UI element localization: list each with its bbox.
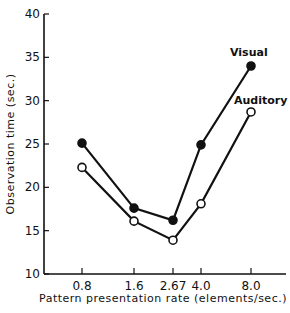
open-circle-marker bbox=[169, 236, 177, 244]
filled-circle-marker bbox=[197, 141, 205, 149]
open-circle-marker bbox=[247, 108, 255, 116]
filled-circle-marker bbox=[78, 139, 86, 147]
series-label-auditory: Auditory bbox=[234, 94, 287, 107]
series-lines bbox=[78, 62, 255, 244]
filled-circle-marker bbox=[169, 216, 177, 224]
y-tick-label: 10 bbox=[25, 267, 40, 281]
filled-circle-marker bbox=[130, 204, 138, 212]
x-axis-label: Pattern presentation rate (elements/sec.… bbox=[39, 292, 287, 305]
y-tick-label: 40 bbox=[25, 7, 40, 21]
x-tick-label: 2.67 bbox=[160, 279, 187, 293]
open-circle-marker bbox=[78, 163, 86, 171]
series-line-visual bbox=[82, 66, 251, 220]
x-tick-label: 8.0 bbox=[241, 279, 260, 293]
x-axis-ticks: 0.81.62.674.08.0 bbox=[72, 268, 260, 293]
y-tick-label: 20 bbox=[25, 180, 40, 194]
open-circle-marker bbox=[130, 217, 138, 225]
open-circle-marker bbox=[197, 200, 205, 208]
series-label-visual: Visual bbox=[230, 46, 268, 59]
filled-circle-marker bbox=[247, 62, 255, 70]
x-tick-label: 4.0 bbox=[191, 279, 210, 293]
y-tick-label: 25 bbox=[25, 137, 40, 151]
y-tick-label: 30 bbox=[25, 94, 40, 108]
x-tick-label: 1.6 bbox=[124, 279, 143, 293]
y-axis-label: Observation time (sec.) bbox=[4, 74, 17, 215]
x-tick-label: 0.8 bbox=[72, 279, 91, 293]
y-tick-label: 15 bbox=[25, 224, 40, 238]
line-chart: 10152025303540 0.81.62.674.08.0 Observat… bbox=[0, 0, 290, 313]
y-axis-ticks: 10152025303540 bbox=[25, 7, 49, 281]
y-tick-label: 35 bbox=[25, 50, 40, 64]
